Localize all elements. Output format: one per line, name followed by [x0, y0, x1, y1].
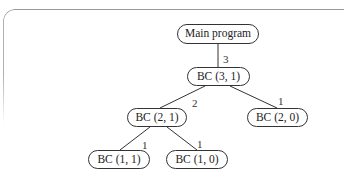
edge-bc31-bc21 — [160, 86, 205, 108]
node-bc-1-0: BC (1, 0) — [166, 150, 228, 169]
node-main-program: Main program — [177, 24, 259, 44]
edge-label-bc31-bc20: 1 — [278, 95, 284, 107]
node-bc-2-0: BC (2, 0) — [247, 108, 308, 127]
node-bc-2-1: BC (2, 1) — [127, 108, 187, 127]
edge-bc31-bc20 — [230, 86, 277, 108]
edge-label-bc21-bc10: 1 — [197, 138, 203, 150]
edge-label-main-bc31: 3 — [223, 53, 229, 65]
edge-label-bc21-bc11: 1 — [142, 139, 148, 151]
node-bc-1-1: BC (1, 1) — [88, 150, 150, 169]
node-bc-3-1: BC (3, 1) — [187, 67, 250, 86]
edge-label-bc31-bc21: 2 — [192, 97, 198, 109]
edge-bc21-bc10 — [167, 127, 197, 150]
